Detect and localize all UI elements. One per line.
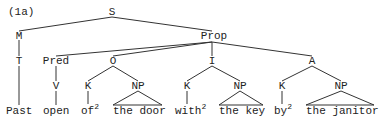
example-label: (1a) — [8, 7, 34, 18]
node-i: I — [209, 56, 216, 67]
node-m: M — [16, 31, 23, 42]
node-v: V — [53, 81, 60, 92]
node-i-np: NP — [233, 81, 246, 92]
leaf-past: Past — [6, 106, 32, 117]
node-a-np: NP — [334, 81, 347, 92]
leaf-with-superscript: 2 — [201, 102, 206, 111]
leaf-of-text: of — [81, 105, 94, 117]
syntax-tree-diagram: (1a) S M T Prop Pred V O K NP I K NP A K… — [0, 0, 387, 123]
node-o-k: K — [85, 81, 92, 92]
leaf-of-superscript: 2 — [94, 102, 99, 111]
node-o-np: NP — [131, 81, 144, 92]
leaf-the-janitor: the janitor — [306, 106, 379, 117]
node-prop: Prop — [201, 31, 227, 42]
leaf-by-text: by — [274, 105, 287, 117]
node-pred: Pred — [43, 56, 69, 67]
leaf-with: with2 — [175, 106, 206, 117]
leaf-by: by2 — [274, 106, 292, 117]
leaf-the-key: the key — [219, 106, 265, 117]
leaf-of: of2 — [81, 106, 99, 117]
leaf-the-door: the door — [113, 106, 166, 117]
node-i-k: K — [184, 81, 191, 92]
node-t: T — [16, 56, 23, 67]
node-o: O — [110, 56, 117, 67]
node-s: S — [109, 7, 116, 18]
leaf-by-superscript: 2 — [287, 102, 292, 111]
leaf-with-text: with — [175, 105, 201, 117]
node-a: A — [309, 56, 316, 67]
leaf-open: open — [43, 106, 69, 117]
node-a-k: K — [279, 81, 286, 92]
